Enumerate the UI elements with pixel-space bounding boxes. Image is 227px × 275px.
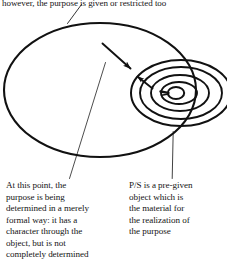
short-arrow bbox=[138, 77, 153, 89]
left-annotation-text: At this point, the purpose is being dete… bbox=[6, 180, 124, 261]
core-tail bbox=[161, 92, 169, 93]
core-ellipse bbox=[168, 87, 184, 99]
left-leader-line bbox=[70, 63, 106, 179]
outer-ellipse bbox=[4, 23, 196, 157]
top-leader-line bbox=[68, 5, 82, 24]
nested-ellipse-1 bbox=[131, 60, 227, 126]
long-arrow bbox=[103, 44, 131, 69]
right-leader-line bbox=[172, 132, 173, 179]
right-annotation-text: P/S is a pre-given object which is the m… bbox=[129, 180, 225, 238]
nested-ellipse-3 bbox=[151, 75, 209, 111]
diagram-canvas: however, the purpose is given or restric… bbox=[0, 0, 227, 275]
